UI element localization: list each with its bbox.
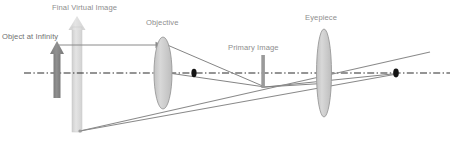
label-objective: Objective [146,19,179,27]
eyepiece-lens [317,29,332,117]
focal-dot-exit [393,69,399,78]
ray-bundle-virtual [80,52,430,131]
optical-ray-diagram: Final Virtual Image Object at Infinity O… [0,0,453,149]
virtual-ray-lower [80,74,397,131]
label-final-virtual-image: Final Virtual Image [52,4,117,12]
ray-convergence-point [78,129,81,132]
object-arrow [50,41,64,98]
virtual-image-arrow [69,16,86,132]
focal-dot-objective [191,69,196,77]
diagram-canvas [0,0,453,149]
virtual-ray-upper [80,52,430,131]
primary-image-bar [261,55,265,88]
objective-lower-ray [165,73,265,88]
label-eyepiece: Eyepiece [305,14,337,22]
label-primary-image: Primary Image [228,44,279,52]
objective-lens [154,37,172,109]
label-object-at-infinity: Object at Infinity [2,33,58,41]
